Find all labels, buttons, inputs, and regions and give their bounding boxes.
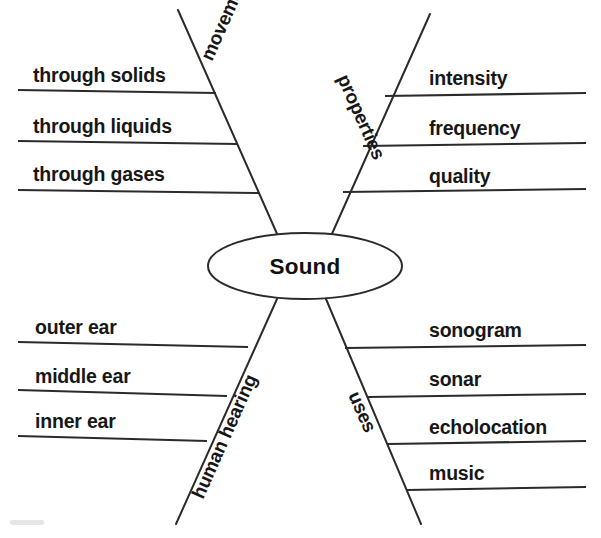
- leaf-label-echolocation: echolocation: [429, 416, 547, 438]
- leaf-connector-line: [18, 90, 216, 93]
- leaf-label-middle-ear: middle ear: [35, 365, 131, 387]
- branch-label-human-hearing: human hearing: [187, 371, 261, 502]
- leaf-connector-line: [343, 189, 586, 192]
- branch-stem-properties: [331, 14, 430, 236]
- branch-label-movement: movement: [196, 0, 254, 64]
- concept-map-diagram: Sound movementpropertieshuman hearinguse…: [0, 0, 601, 538]
- leaf-label-frequency: frequency: [429, 117, 521, 139]
- branch-label-uses: uses: [344, 388, 380, 435]
- leaf-connector-line: [18, 342, 248, 347]
- leaf-connector-line: [18, 436, 207, 441]
- scan-artifact: [10, 520, 44, 525]
- leaf-label-quality: quality: [429, 165, 491, 187]
- leaf-connector-line: [388, 441, 586, 444]
- leaf-label-sonar: sonar: [429, 368, 482, 390]
- center-node-label: Sound: [270, 254, 341, 279]
- branch-label-properties: properties: [333, 71, 389, 163]
- leaf-connector-line: [18, 190, 259, 193]
- leaf-label-through-solids: through solids: [33, 64, 166, 86]
- leaf-connector-line: [385, 93, 586, 96]
- leaf-connector-line: [407, 487, 586, 490]
- leaf-label-sonogram: sonogram: [429, 319, 522, 341]
- leaf-connector-line: [345, 345, 586, 348]
- leaf-label-outer-ear: outer ear: [35, 316, 117, 338]
- leaf-connector-line: [363, 143, 586, 146]
- branch-stem-movement: [178, 10, 278, 236]
- leaf-connector-line: [18, 141, 238, 144]
- sound-concept-map-canvas: Sound movementpropertieshuman hearinguse…: [0, 0, 601, 538]
- leaf-label-through-gases: through gases: [33, 163, 165, 185]
- leaf-label-inner-ear: inner ear: [35, 410, 116, 432]
- leaf-label-through-liquids: through liquids: [33, 115, 172, 137]
- leaf-connector-line: [368, 394, 586, 397]
- leaf-connector-line: [18, 390, 227, 396]
- leaf-label-music: music: [429, 462, 485, 484]
- leaf-label-intensity: intensity: [429, 67, 508, 89]
